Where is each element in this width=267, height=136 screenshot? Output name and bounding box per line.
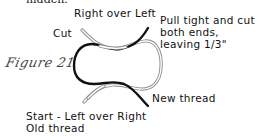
- label-old-thread: Old thread: [26, 123, 85, 134]
- old-thread-overlap: [88, 46, 126, 98]
- label-new-thread: New thread: [152, 93, 216, 104]
- knot-diagram: hidden. Right over Left Cut Pull tight a…: [0, 0, 267, 136]
- label-start-left-over-right: Start - Left over Right: [26, 111, 147, 122]
- label-pull-tight-line1: Pull tight and cut: [160, 15, 255, 26]
- label-cut: Cut: [53, 28, 72, 39]
- figure-caption: Figure 21: [4, 55, 76, 70]
- new-thread-path: [74, 28, 148, 106]
- label-pull-tight-line3: leaving 1/3": [160, 39, 227, 50]
- label-right-over-left: Right over Left: [74, 8, 156, 19]
- label-pull-tight-line2: both ends,: [160, 27, 219, 38]
